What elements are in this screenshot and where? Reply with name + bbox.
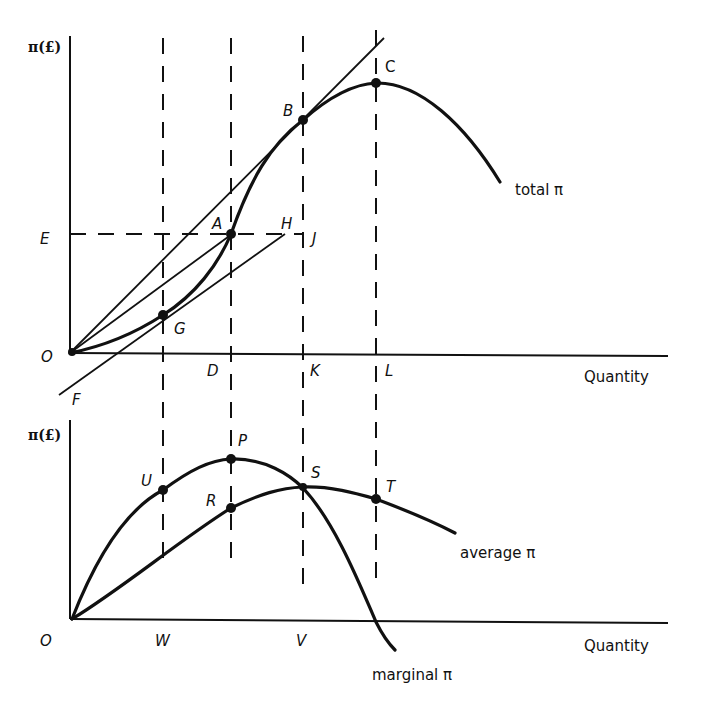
label-w: W — [155, 632, 171, 650]
label-r: R — [206, 492, 216, 510]
total-profit-label: total π — [515, 181, 563, 199]
label-a: A — [211, 215, 222, 233]
point-u — [158, 485, 168, 495]
label-o-top: O — [41, 348, 53, 366]
label-l: L — [385, 362, 393, 380]
label-c: C — [385, 58, 395, 76]
point-a — [226, 229, 236, 239]
label-j: J — [309, 230, 316, 248]
ray-ob — [70, 38, 384, 353]
point-b — [298, 115, 308, 125]
top-y-axis-label: π(£) — [28, 39, 61, 55]
average-profit-curve — [72, 487, 455, 619]
top-x-axis — [70, 353, 668, 356]
label-b: B — [283, 102, 293, 120]
label-t: T — [386, 478, 397, 496]
label-u: U — [141, 472, 152, 490]
label-p: P — [238, 432, 248, 450]
label-s: S — [311, 464, 321, 482]
average-profit-label: average π — [460, 544, 535, 562]
label-d: D — [207, 362, 219, 380]
label-k: K — [310, 362, 321, 380]
bottom-y-axis-label: π(£) — [28, 427, 61, 443]
bottom-x-axis-label: Quantity — [584, 637, 649, 655]
point-p — [226, 454, 236, 464]
label-v: V — [296, 632, 308, 650]
label-o-bottom: O — [40, 632, 52, 650]
point-t — [371, 494, 381, 504]
tangent-fh — [59, 234, 285, 395]
marginal-profit-label: marginal π — [372, 666, 452, 684]
point-o-top — [68, 348, 76, 356]
profit-curves-diagram: π(£) E O F G A H J B C D K L Quantity to… — [0, 0, 702, 707]
top-x-axis-label: Quantity — [584, 368, 649, 386]
label-e: E — [40, 230, 50, 248]
point-s — [299, 483, 307, 491]
bottom-x-axis — [70, 619, 668, 623]
ray-oa — [70, 234, 232, 353]
point-r — [226, 503, 236, 513]
label-h: H — [281, 215, 292, 233]
point-c — [371, 78, 381, 88]
label-f: F — [72, 391, 81, 409]
point-g — [158, 310, 168, 320]
label-g: G — [174, 320, 186, 338]
